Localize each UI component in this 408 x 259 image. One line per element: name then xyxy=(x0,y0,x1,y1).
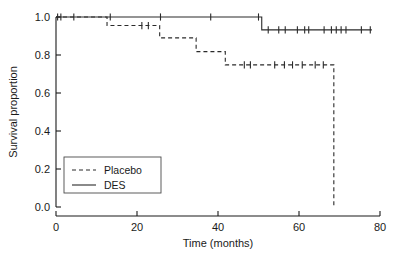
y-tick-label: 0.8 xyxy=(35,49,50,61)
series-des xyxy=(56,13,372,33)
y-tick-label: 0.6 xyxy=(35,87,50,99)
y-tick-label: 0.0 xyxy=(35,201,50,213)
x-axis-ticks: 020406080 xyxy=(53,211,386,233)
y-axis: 0.00.20.40.60.81.0 Survival proportion xyxy=(7,11,61,213)
x-tick-label: 20 xyxy=(131,221,143,233)
survival-curve-figure: 0.00.20.40.60.81.0 Survival proportion 0… xyxy=(0,0,408,259)
x-axis: 020406080 Time (months) xyxy=(53,211,386,249)
x-tick-label: 80 xyxy=(374,221,386,233)
y-tick-label: 0.2 xyxy=(35,163,50,175)
y-tick-label: 0.4 xyxy=(35,125,50,137)
chart-legend: PlaceboDES xyxy=(64,157,161,193)
legend-label-des: DES xyxy=(104,179,126,191)
kaplan-meier-chart: 0.00.20.40.60.81.0 Survival proportion 0… xyxy=(0,0,408,259)
legend-label-placebo: Placebo xyxy=(104,164,142,176)
x-tick-label: 60 xyxy=(293,221,305,233)
x-tick-label: 40 xyxy=(212,221,224,233)
y-tick-label: 1.0 xyxy=(35,11,50,23)
y-axis-ticks: 0.00.20.40.60.81.0 xyxy=(35,11,61,213)
y-axis-label: Survival proportion xyxy=(7,66,19,158)
x-axis-label: Time (months) xyxy=(183,237,254,249)
x-tick-label: 0 xyxy=(53,221,59,233)
